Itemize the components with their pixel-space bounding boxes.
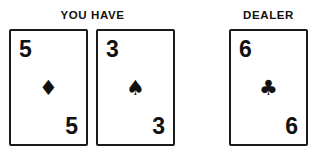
card-rank-top: 6	[239, 38, 252, 61]
card-rank-top: 5	[19, 38, 32, 61]
dealer-card-1[interactable]: 6 ♣ 6	[229, 29, 308, 146]
spade-icon: ♠	[98, 77, 173, 98]
player-card-1[interactable]: 5 ♦ 5	[9, 29, 88, 146]
card-rank-top: 3	[106, 38, 119, 61]
card-rank-bottom: 5	[65, 115, 78, 138]
dealer-hand-label: DEALER	[229, 9, 308, 22]
club-icon: ♣	[231, 77, 306, 98]
player-hand-label: YOU HAVE	[9, 9, 176, 22]
card-rank-bottom: 3	[152, 115, 165, 138]
card-rank-bottom: 6	[285, 115, 298, 138]
diamond-icon: ♦	[11, 77, 86, 98]
player-card-2[interactable]: 3 ♠ 3	[96, 29, 175, 146]
